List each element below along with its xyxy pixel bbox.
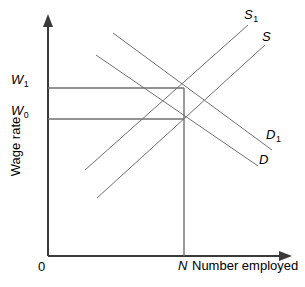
y-tick-label-w0-subscript: 0 (24, 110, 29, 120)
curve-label-s: S (262, 30, 271, 43)
x-axis-title: Number employed (192, 259, 298, 272)
y-axis-title: Wage rate (9, 112, 22, 182)
curve-label-d1: D1 (266, 128, 280, 141)
diagram-canvas (0, 0, 305, 287)
demand-curve-d1-line (113, 33, 272, 150)
guide-lines-group (48, 88, 184, 256)
curve-label-s1: S1 (244, 8, 258, 21)
x-tick-label-n: N (178, 259, 187, 272)
curve-label-d1-subscript: 1 (276, 134, 281, 144)
demand-curve-d-line (96, 55, 258, 166)
y-axis-arrowhead (43, 14, 53, 27)
curve-label-s1-subscript: 1 (253, 14, 258, 24)
supply-curves-group (85, 25, 265, 198)
supply-demand-figure: W1 W0 0 N Number employed Wage rate S1 S… (0, 0, 305, 287)
supply-curve-s-line (97, 45, 265, 198)
origin-label: 0 (38, 260, 45, 273)
supply-curve-s1-line (85, 25, 248, 170)
curve-label-d: D (259, 153, 268, 166)
y-tick-label-w1-subscript: 1 (24, 79, 29, 89)
y-tick-label-w1: W1 (11, 73, 28, 86)
